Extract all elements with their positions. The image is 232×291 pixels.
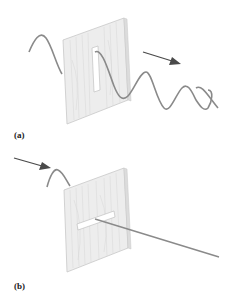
- panel-a: [29, 18, 218, 124]
- direction-arrow-a: [143, 52, 181, 65]
- panel-label-a: (a): [14, 130, 25, 140]
- rope-wave-incoming-a: [29, 35, 62, 74]
- rope-wave-incoming-b: [47, 170, 70, 187]
- panel-label-b: (b): [14, 281, 25, 291]
- direction-arrow-b: [14, 158, 51, 170]
- panel-b: [14, 158, 219, 272]
